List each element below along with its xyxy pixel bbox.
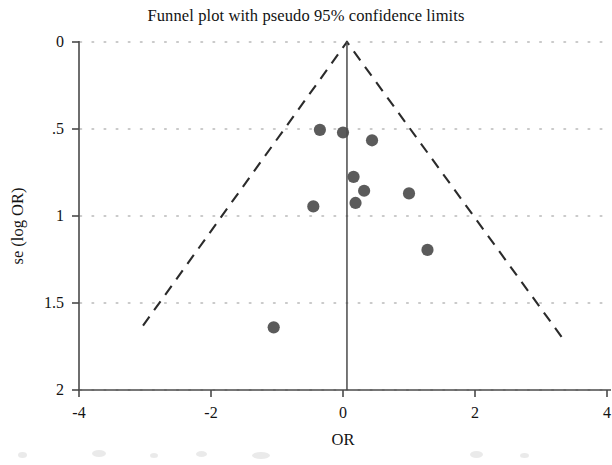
x-tick-label-4: 4 (603, 404, 611, 422)
y-tick-label-15: 1.5 (44, 294, 64, 312)
x-tick-label-neg2: -2 (204, 404, 217, 422)
scan-artifact (92, 450, 106, 457)
scan-artifact (196, 451, 207, 457)
data-point-1[interactable] (314, 124, 326, 136)
x-tick-label-0: 0 (339, 404, 347, 422)
y-tick-label-2: 2 (56, 381, 64, 399)
x-axis-title: OR (79, 430, 607, 450)
scan-artifact (150, 453, 158, 458)
data-point-10[interactable] (268, 321, 280, 333)
data-point-8[interactable] (403, 187, 415, 199)
chart-canvas (0, 0, 612, 465)
scan-artifact (18, 452, 27, 458)
pseudo-95-confidence-limits (143, 42, 565, 341)
data-point-3[interactable] (366, 134, 378, 146)
y-tick-label-1: 1 (56, 207, 64, 225)
y-tick-label-05: .5 (52, 120, 64, 138)
y-axis-title-holder: se (log OR) (0, 0, 1, 1)
data-point-6[interactable] (358, 185, 370, 197)
x-tick-label-neg4: -4 (72, 404, 85, 422)
x-tick-label-2: 2 (471, 404, 479, 422)
scan-artifact (520, 453, 529, 458)
y-tick-label-0: 0 (56, 33, 64, 51)
y-axis-title: se (log OR) (8, 146, 28, 306)
scan-artifact (252, 452, 270, 459)
data-point-4[interactable] (307, 200, 319, 212)
data-point-9[interactable] (421, 244, 433, 256)
funnel-plot-figure: Funnel plot with pseudo 95% confidence l… (0, 0, 612, 465)
scan-artifact (470, 451, 483, 458)
data-point-2[interactable] (337, 126, 349, 138)
data-point-7[interactable] (349, 197, 361, 209)
data-point-5[interactable] (347, 171, 359, 183)
